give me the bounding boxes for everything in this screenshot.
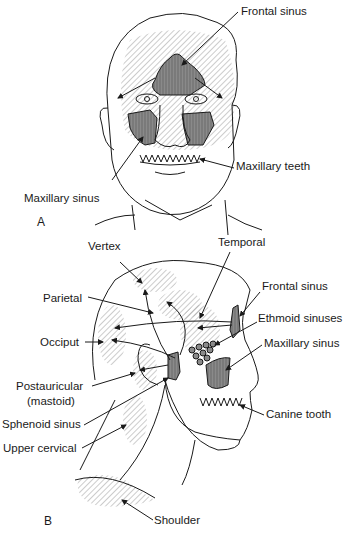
maxillary-sinus-b (206, 358, 230, 389)
mouth (155, 172, 185, 175)
arrow-canine (240, 405, 264, 415)
left-ear (100, 108, 114, 150)
label-occiput: Occiput (40, 336, 79, 349)
label-upper-cervical: Upper cervical (3, 442, 77, 455)
vertex-area (133, 268, 177, 292)
label-sphenoid-sinus: Sphenoid sinus (2, 418, 81, 431)
panel-a-front-view (95, 12, 262, 235)
label-maxillary-teeth: Maxillary teeth (236, 160, 310, 173)
label-postauricular: Postauricular (16, 380, 83, 393)
maxillary-sinus-left (128, 110, 157, 145)
shoulders (95, 215, 262, 230)
label-ethmoid-sinuses: Ethmoid sinuses (258, 312, 342, 325)
label-mastoid: (mastoid) (27, 395, 75, 408)
sphenoid-sinus-b (168, 352, 180, 380)
label-parietal: Parietal (43, 292, 82, 305)
teeth-a (140, 155, 200, 162)
label-maxillary-sinus-a: Maxillary sinus (24, 192, 99, 205)
arrow-upper-cervical (82, 425, 126, 448)
postauricular-area (133, 350, 157, 390)
label-shoulder: Shoulder (154, 514, 200, 527)
neck (132, 200, 228, 235)
panel-b-side-view (75, 252, 264, 520)
teeth-b (200, 398, 242, 406)
arrow-maxillary-sinus-a (112, 137, 143, 180)
label-frontal-sinus-b: Frontal sinus (262, 280, 328, 293)
arrow-parietal (88, 297, 153, 313)
panel-letter-b: B (44, 514, 52, 528)
label-temporal: Temporal (218, 236, 265, 249)
upper-cervical-area (123, 395, 147, 445)
arrow-frontal-sinus-b (240, 292, 260, 316)
arrow-maxillary-b (226, 345, 262, 370)
arrow-temporal (200, 252, 230, 318)
sinus-referred-pain-diagram: Frontal sinus Maxillary teeth Maxillary … (0, 0, 363, 535)
arrow-postauricular (92, 373, 135, 386)
label-vertex: Vertex (88, 240, 121, 253)
occiput-area (98, 305, 126, 365)
arrow-maxillary-teeth (200, 159, 234, 168)
panel-letter-a: A (37, 215, 45, 229)
label-canine-tooth: Canine tooth (266, 408, 331, 421)
label-frontal-sinus-a: Frontal sinus (241, 5, 307, 18)
label-maxillary-sinus-b: Maxillary sinus (264, 337, 339, 350)
